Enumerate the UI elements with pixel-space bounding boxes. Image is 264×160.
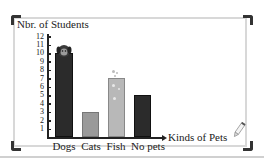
y-tick — [47, 103, 51, 105]
y-axis-label: Nbr. of Students — [17, 18, 89, 30]
bubble-icon — [113, 97, 116, 100]
bubble-icon — [114, 75, 116, 77]
y-tick-label: 3 — [27, 108, 44, 116]
x-category-label: Cats — [79, 140, 103, 152]
y-tick — [47, 112, 51, 114]
divider — [0, 156, 264, 158]
bubble-icon — [112, 70, 115, 73]
y-tick — [47, 120, 51, 122]
bar-fish — [108, 78, 125, 137]
bubble-icon — [118, 88, 120, 90]
x-axis — [47, 137, 163, 139]
y-tick-label: 1 — [27, 125, 44, 133]
y-tick-label: 5 — [27, 91, 44, 99]
y-tick — [47, 45, 51, 47]
y-tick — [47, 87, 51, 89]
y-tick — [47, 36, 51, 38]
y-tick — [47, 61, 51, 63]
x-category-label: No pets — [130, 140, 166, 152]
y-tick-label: 11 — [27, 41, 44, 49]
bubble-icon — [112, 84, 115, 87]
y-tick — [47, 95, 51, 97]
bar-no-pets — [134, 95, 151, 137]
y-tick-label: 12 — [27, 33, 44, 41]
y-tick — [47, 129, 51, 131]
x-category-label: Dogs — [51, 140, 77, 152]
y-tick-label: 6 — [27, 83, 44, 91]
bubble-icon — [116, 72, 118, 74]
pencil-icon — [232, 121, 246, 139]
y-tick-label: 9 — [27, 58, 44, 66]
frame-corner-top-right — [243, 15, 253, 25]
frame-corner-bottom-left — [11, 141, 21, 151]
frame-corner-bottom-right — [243, 141, 253, 151]
y-tick-label: 7 — [27, 75, 44, 83]
x-category-label: Fish — [104, 140, 128, 152]
y-tick-label: 8 — [27, 66, 44, 74]
y-tick-label: 10 — [27, 49, 44, 57]
x-axis-label: Kinds of Pets — [168, 131, 227, 143]
y-tick-label: 4 — [27, 100, 44, 108]
bar-cats — [82, 112, 99, 137]
bar-dogs — [55, 53, 73, 137]
dog-head-icon — [56, 44, 72, 58]
y-tick — [47, 78, 51, 80]
y-tick — [47, 53, 51, 55]
y-tick-label: 2 — [27, 117, 44, 125]
y-tick — [47, 70, 51, 72]
